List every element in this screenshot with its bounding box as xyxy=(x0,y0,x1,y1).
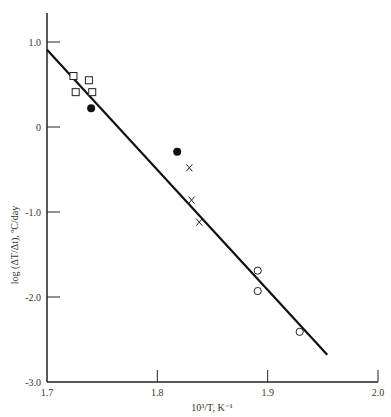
x-tick-label: 1.9 xyxy=(261,387,274,398)
chart-canvas: 1.00-1.0-2.0-3.0 1.71.81.92.0 10³/T, K⁻¹… xyxy=(0,0,391,417)
filled-circle-marker xyxy=(173,148,181,156)
x-tick-label: 1.7 xyxy=(41,387,54,398)
axes xyxy=(47,13,378,382)
x-marker xyxy=(189,197,195,204)
x-ticks: 1.71.81.92.0 xyxy=(41,370,385,398)
y-tick-label: 1.0 xyxy=(29,37,42,48)
y-ticks: 1.00-1.0-2.0-3.0 xyxy=(25,37,60,388)
x-tick-label: 2.0 xyxy=(372,387,385,398)
square-marker xyxy=(72,89,79,96)
y-tick-label: -2.0 xyxy=(25,292,41,303)
y-tick-label: -3.0 xyxy=(25,377,41,388)
y-tick-label: 0 xyxy=(36,122,41,133)
x-axis-title: 10³/T, K⁻¹ xyxy=(191,402,232,413)
square-marker xyxy=(89,89,96,96)
square-marker xyxy=(85,77,92,84)
y-axis-title: log (ΔT/Δt), ºC/day xyxy=(9,206,21,284)
open-circle-marker xyxy=(254,267,261,274)
y-tick-label: -1.0 xyxy=(25,207,41,218)
open-circle-marker xyxy=(296,328,303,335)
x-marker xyxy=(196,219,202,226)
x-tick-label: 1.8 xyxy=(151,387,164,398)
square-marker xyxy=(70,73,77,80)
x-marker xyxy=(186,164,192,171)
open-circle-marker xyxy=(254,287,261,294)
filled-circle-marker xyxy=(87,104,95,112)
